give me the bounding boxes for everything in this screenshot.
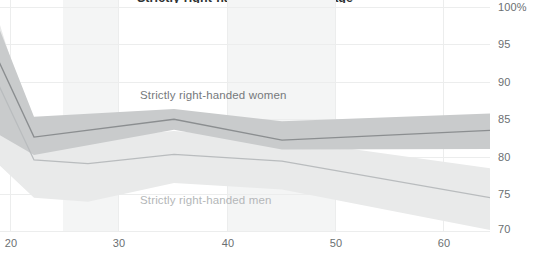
x-tick-50: 50 <box>330 238 342 249</box>
x-tick-40: 40 <box>222 238 234 249</box>
y-axis-tick-labels: 100% 95 90 85 80 75 70 <box>490 0 539 232</box>
y-tick-85: 85 <box>498 114 510 125</box>
chart-page: Strictly right-handed people, by age <box>0 0 539 255</box>
y-tick-90: 90 <box>498 77 510 88</box>
y-tick-80: 80 <box>498 152 510 163</box>
x-tick-30: 30 <box>113 238 125 249</box>
y-tick-100: 100% <box>498 2 527 13</box>
y-tick-95: 95 <box>498 39 510 50</box>
y-tick-75: 75 <box>498 189 510 200</box>
x-tick-20: 20 <box>5 238 17 249</box>
series-label-women: Strictly right-handed women <box>140 89 287 101</box>
x-tick-60: 60 <box>438 238 450 249</box>
x-axis-tick-labels: 20 30 40 50 60 <box>0 233 490 255</box>
chart-plot-area: Strictly right-handed women Strictly rig… <box>0 0 490 232</box>
y-tick-70: 70 <box>498 224 510 235</box>
series-label-men: Strictly right-handed men <box>140 194 272 206</box>
